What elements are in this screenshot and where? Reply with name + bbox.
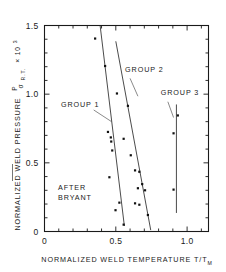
data-point: [104, 65, 106, 67]
series-labels: GROUP 1GROUP 2GROUP 3: [61, 65, 199, 110]
scientific-figure: NORMALIZED WELD PRESSURE P σ R.T. × 10 3…: [0, 0, 226, 272]
data-point: [114, 209, 116, 211]
data-point: [110, 140, 112, 142]
series-label-group-3: GROUP 3: [161, 88, 200, 97]
data-point: [147, 214, 149, 216]
y-axis-title: NORMALIZED WELD PRESSURE P σ R.T. × 10 3: [10, 39, 27, 230]
data-point: [177, 114, 179, 116]
x-axis-title-sub: M: [207, 260, 212, 266]
data-point: [134, 169, 136, 171]
scatter-plot: NORMALIZED WELD PRESSURE P σ R.T. × 10 3…: [0, 0, 226, 272]
data-point: [108, 176, 110, 178]
data-point: [172, 132, 174, 134]
data-point: [111, 149, 113, 151]
series-leaders: [94, 78, 174, 121]
data-point: [141, 183, 143, 185]
label-leader-line: [94, 110, 112, 122]
data-point: [144, 189, 146, 191]
data-point: [138, 204, 140, 206]
x-axis-title: NORMALIZED WELD TEMPERATURE T/TM: [41, 255, 212, 266]
data-point: [127, 105, 129, 107]
x-tick-label: 0: [42, 236, 47, 246]
data-point: [123, 138, 125, 140]
series-label-group-2: GROUP 2: [125, 65, 164, 74]
y-axis-tick-labels: 00.51.01.5: [26, 21, 39, 237]
source-annotation: AFTER BRYANT: [58, 183, 92, 202]
annotation-line-1: AFTER: [58, 183, 86, 192]
x-axis-tick-labels: 00.51.0: [42, 236, 193, 246]
data-point: [116, 92, 118, 94]
label-leader-line: [130, 78, 138, 96]
y-tick-label: 0.5: [26, 158, 39, 168]
y-axis-den-sub: R.T.: [20, 68, 26, 81]
data-point: [94, 37, 96, 39]
x-tick-label: 1.0: [181, 236, 194, 246]
y-axis-title-text: NORMALIZED WELD PRESSURE P σ R.T. × 10 3: [10, 39, 27, 230]
trend-line: [100, 26, 124, 227]
data-point: [130, 154, 132, 156]
series-label-group-1: GROUP 1: [61, 100, 100, 109]
y-tick-label: 0: [33, 227, 38, 237]
data-point: [123, 224, 125, 226]
x-axis-title-main: NORMALIZED WELD TEMPERATURE T/T: [41, 255, 207, 264]
data-point: [118, 202, 120, 204]
y-axis-mult: × 10: [14, 46, 21, 63]
y-axis-title-main: NORMALIZED WELD PRESSURE: [13, 98, 22, 231]
data-point: [134, 202, 136, 204]
data-point: [172, 189, 174, 191]
annotation-line-2: BRYANT: [58, 193, 92, 202]
data-point: [138, 171, 140, 173]
data-point: [137, 187, 139, 189]
y-axis-den: σ: [17, 83, 24, 88]
y-axis-exp: 3: [12, 39, 18, 43]
series-trendlines: [100, 26, 176, 231]
label-leader-line: [168, 102, 174, 118]
x-tick-label: 0.5: [109, 236, 122, 246]
y-tick-label: 1.5: [26, 21, 39, 31]
data-point: [107, 131, 109, 133]
data-point: [110, 136, 112, 138]
y-tick-label: 1.0: [26, 89, 39, 99]
